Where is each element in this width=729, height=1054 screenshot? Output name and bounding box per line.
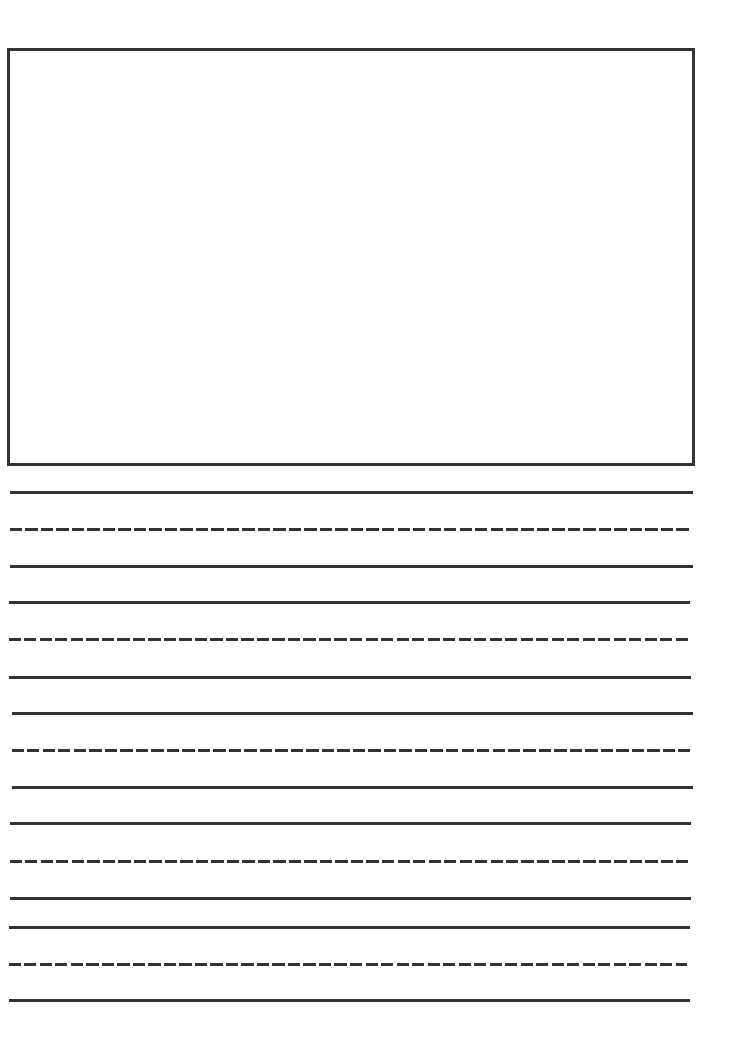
baseline — [10, 897, 691, 900]
top-line — [9, 601, 690, 604]
top-line — [10, 491, 693, 494]
midline-dashed — [9, 963, 687, 966]
baseline — [9, 999, 690, 1002]
baseline — [9, 676, 691, 679]
drawing-box — [7, 48, 695, 466]
top-line — [9, 926, 690, 929]
midline-dashed — [12, 749, 690, 752]
baseline — [12, 786, 693, 789]
midline-dashed — [10, 528, 690, 531]
baseline — [10, 565, 693, 568]
top-line — [12, 712, 693, 715]
midline-dashed — [9, 638, 688, 641]
top-line — [10, 822, 691, 825]
midline-dashed — [10, 860, 688, 863]
